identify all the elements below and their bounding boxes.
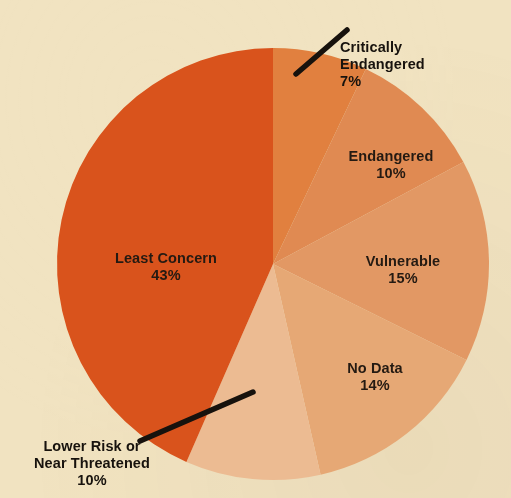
slice-label-text: Lower Risk or Near Threatened	[34, 438, 150, 471]
slice-label-text: Least Concern	[115, 250, 217, 266]
slice-label-percent: 7%	[340, 73, 500, 90]
slice-label-percent: 43%	[96, 267, 236, 284]
slice-label-text: Endangered	[349, 148, 434, 164]
slice-label-text: Vulnerable	[366, 253, 441, 269]
slice-label-text: Critically Endangered	[340, 39, 425, 72]
slice-label-percent: 15%	[338, 270, 468, 287]
slice-label-text: No Data	[347, 360, 403, 376]
slice-label-vulnerable: Vulnerable 15%	[338, 236, 468, 304]
pie-chart-poster: STATUS OF SHARKS AND RAYS Critically End…	[0, 0, 511, 498]
slice-label-lower-risk-near-threatened: Lower Risk or Near Threatened 10%	[10, 421, 174, 498]
slice-label-critically-endangered: Critically Endangered 7%	[340, 22, 500, 108]
slice-label-percent: 14%	[314, 377, 436, 394]
slice-label-no-data: No Data 14%	[314, 343, 436, 411]
slice-label-percent: 10%	[326, 165, 456, 182]
slice-label-percent: 10%	[10, 472, 174, 489]
slice-label-endangered: Endangered 10%	[326, 131, 456, 199]
slice-label-least-concern: Least Concern 43%	[96, 233, 236, 301]
